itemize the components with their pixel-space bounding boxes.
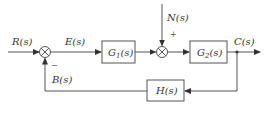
block-h: H(s) xyxy=(147,80,184,101)
label-input-r: R(s) xyxy=(11,36,33,47)
block-diagram: R(s) − E(s) G1(s) N(s) + G2(s) C(s) H(s) xyxy=(0,0,266,113)
g1-tail: (s) xyxy=(120,47,133,58)
summing-junction-1 xyxy=(40,47,51,58)
plus-sign: + xyxy=(170,30,177,39)
g2-main: G xyxy=(197,47,205,58)
g1-main: G xyxy=(108,47,116,58)
block-g1: G1(s) xyxy=(102,41,135,63)
block-g2: G2(s) xyxy=(190,41,227,63)
h-label: H(s) xyxy=(155,85,178,96)
g2-tail: (s) xyxy=(209,47,222,58)
label-feedback-b: B(s) xyxy=(51,74,72,85)
label-output-c: C(s) xyxy=(234,36,255,47)
label-error-e: E(s) xyxy=(64,36,85,47)
minus-sign: − xyxy=(51,61,58,70)
label-disturbance-n: N(s) xyxy=(166,12,189,23)
summing-junction-2 xyxy=(157,47,168,58)
